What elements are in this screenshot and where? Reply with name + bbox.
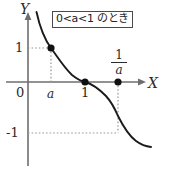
x-tick-inv-a-denominator: a (110, 63, 128, 76)
y-axis-label: Y (20, 2, 29, 16)
x-axis-label: X (148, 76, 158, 90)
y-tick-one-label: 1 (15, 41, 23, 54)
condition-caption-box: 0<a<1 のとき (52, 11, 133, 28)
x-tick-one-label: 1 (81, 86, 89, 99)
x-axis (6, 79, 146, 86)
point-a-one (47, 44, 54, 51)
origin-label: 0 (16, 86, 24, 99)
y-tick-minus-one-label: -1 (6, 126, 19, 139)
x-tick-inv-a-label: 1 a (110, 49, 128, 76)
point-inv-a-minus-one (114, 78, 121, 85)
x-tick-a-label: a (47, 88, 54, 100)
log-function-figure: 0<a<1 のとき X Y 0 1 -1 a 1 1 a (0, 0, 189, 171)
log-curve (37, 12, 152, 147)
x-tick-inv-a-numerator: 1 (110, 49, 128, 62)
y-axis (25, 12, 32, 166)
